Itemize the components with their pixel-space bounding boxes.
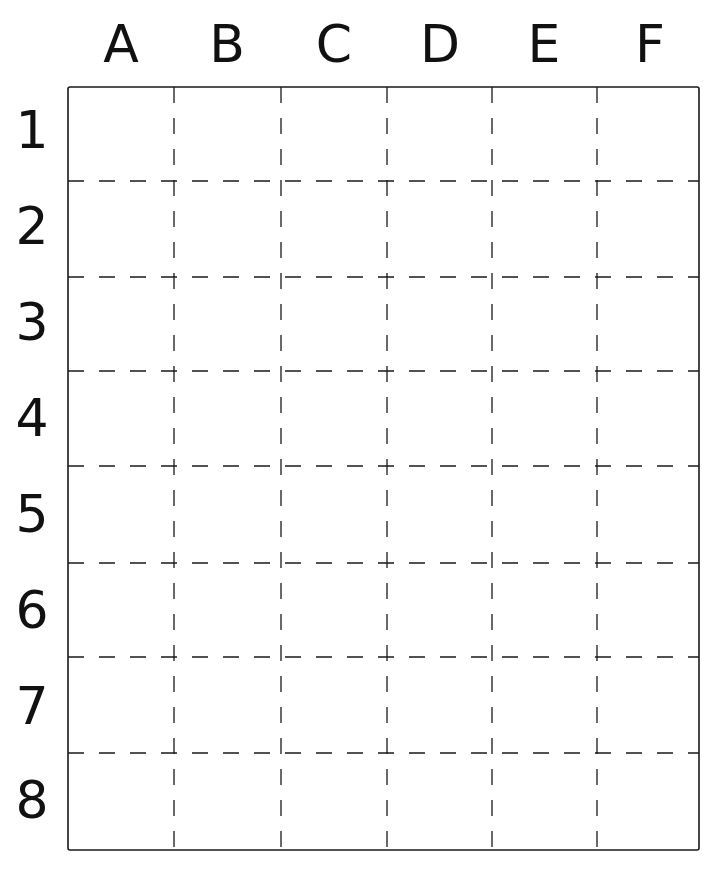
grid-lines bbox=[0, 0, 724, 870]
grid-border bbox=[68, 87, 699, 850]
horizontal-dividers bbox=[68, 181, 699, 753]
vertical-dividers bbox=[174, 87, 597, 850]
